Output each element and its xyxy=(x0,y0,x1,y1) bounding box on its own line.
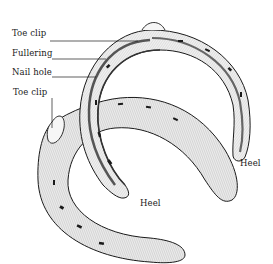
horseshoe-illustration xyxy=(0,0,273,264)
label-heel-right: Heel xyxy=(240,158,261,168)
lower-horseshoe xyxy=(38,97,237,262)
label-toe-clip-top: Toe clip xyxy=(12,28,46,38)
label-fullering: Fullering xyxy=(12,48,52,58)
label-nail-hole: Nail hole xyxy=(12,67,52,77)
label-toe-clip-left: Toe clip xyxy=(13,87,47,97)
label-heel-center: Heel xyxy=(140,198,161,208)
